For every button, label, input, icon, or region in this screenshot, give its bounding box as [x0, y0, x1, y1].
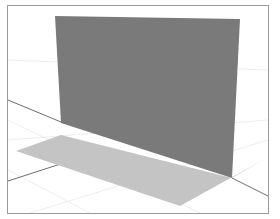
axis-line-left-upper: [8, 100, 61, 122]
3d-viewport[interactable]: [0, 0, 280, 219]
axis-line-right: [232, 178, 268, 196]
scene-canvas[interactable]: [0, 0, 280, 219]
